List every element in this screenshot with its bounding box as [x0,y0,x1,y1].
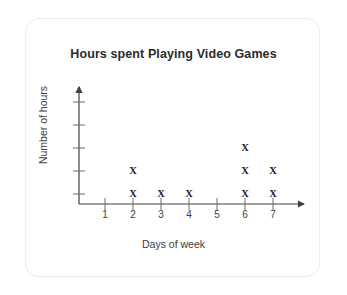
data-mark: X [126,164,140,178]
x-tick-label-7: 7 [265,209,281,220]
chart-card: Hours spent Playing Video Games [25,18,320,277]
data-mark: X [238,164,252,178]
x-axis-title: Days of week [26,238,321,250]
plot-area: 1 2 3 4 5 6 7 XXXXXXXXX Number of hours … [26,19,321,278]
x-tick-label-6: 6 [237,209,253,220]
data-mark: X [126,187,140,201]
data-mark: X [154,187,168,201]
data-mark: X [266,187,280,201]
x-tick-label-1: 1 [97,209,113,220]
data-mark: X [238,141,252,155]
x-tick-label-3: 3 [153,209,169,220]
x-tick-label-5: 5 [209,209,225,220]
x-tick-label-2: 2 [125,209,141,220]
data-mark: X [238,187,252,201]
data-mark: X [182,187,196,201]
y-axis-title: Number of hours [37,70,49,180]
x-tick-label-4: 4 [181,209,197,220]
data-mark: X [266,164,280,178]
